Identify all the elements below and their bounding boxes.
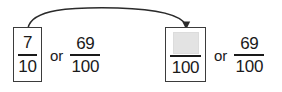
left-connector-or: or	[50, 46, 63, 63]
left-box-denominator: 10	[18, 57, 36, 77]
right-plain-numerator: 69	[240, 34, 258, 53]
blank-numerator-tile	[173, 32, 199, 54]
right-expression: 100 or 69 100	[165, 27, 264, 82]
equivalent-fractions-figure: 7 10 or 69 100 100 or 69 100	[0, 0, 282, 92]
left-expression: 7 10 or 69 100	[13, 27, 100, 82]
arrow-arc	[28, 8, 186, 28]
right-connector-or: or	[214, 46, 227, 63]
right-plain-fraction-rule	[234, 54, 264, 56]
left-plain-denominator: 100	[72, 57, 99, 76]
right-box-denominator: 100	[172, 58, 199, 78]
left-plain-fraction-rule	[70, 54, 100, 56]
left-box-numerator: 7	[23, 33, 32, 53]
left-box-fraction-rule	[18, 54, 37, 56]
right-box-fraction-rule	[170, 55, 201, 57]
right-plain-fraction: 69 100	[234, 34, 264, 76]
left-boxed-fraction: 7 10	[13, 27, 42, 82]
right-plain-denominator: 100	[236, 57, 263, 76]
right-boxed-fraction: 100	[165, 27, 206, 82]
left-plain-numerator: 69	[76, 34, 94, 53]
left-plain-fraction: 69 100	[70, 34, 100, 76]
